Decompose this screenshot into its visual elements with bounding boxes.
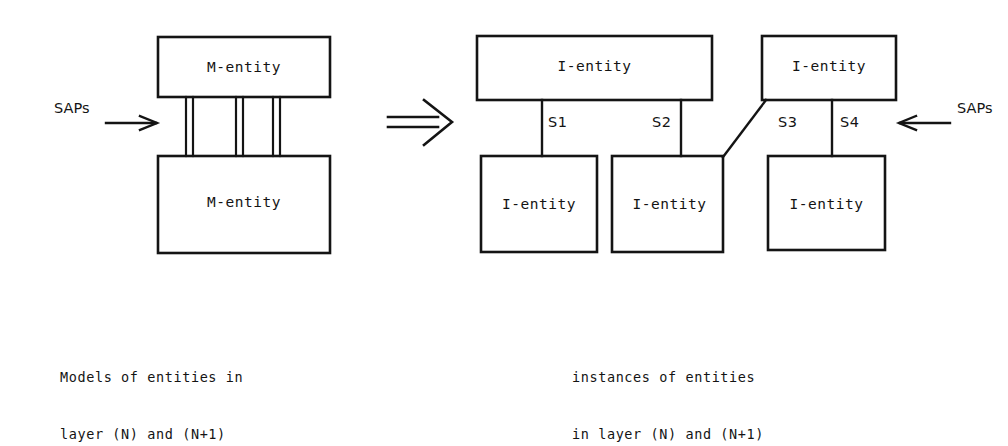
caption-left-line-1: Models of entities in <box>60 368 243 387</box>
caption-right-line-1: instances of entities <box>572 368 764 387</box>
connector-label-s1: S1 <box>548 114 567 130</box>
arrow-left-icon <box>899 116 950 130</box>
double-arrow-right-icon <box>388 100 452 145</box>
caption-left-line-2: layer (N) and (N+1) <box>60 425 243 444</box>
box-label-m-entity-upper: M-entity <box>158 59 330 75</box>
caption-right: instances of entities in layer (N) and (… <box>572 330 764 446</box>
box-label-i-entity-top-wide: I-entity <box>477 58 712 74</box>
connector-label-s2: S2 <box>652 114 671 130</box>
box-label-i-entity-bottom-2: I-entity <box>612 196 727 212</box>
arrow-right-icon <box>106 116 157 130</box>
box-label-i-entity-bottom-3: I-entity <box>768 196 885 212</box>
connector-label-s4: S4 <box>840 114 859 130</box>
box-label-i-entity-bottom-1: I-entity <box>481 196 597 212</box>
sap-connector-lines <box>186 97 280 156</box>
caption-right-line-2: in layer (N) and (N+1) <box>572 425 764 444</box>
sap-label-left: SAPs <box>54 100 89 116</box>
box-label-i-entity-top-right: I-entity <box>762 58 896 74</box>
connector-s3 <box>723 100 766 157</box>
connector-label-s3: S3 <box>778 114 797 130</box>
caption-left: Models of entities in layer (N) and (N+1… <box>60 330 243 446</box>
box-label-m-entity-lower: M-entity <box>158 194 330 210</box>
sap-label-right: SAPs <box>957 100 992 116</box>
